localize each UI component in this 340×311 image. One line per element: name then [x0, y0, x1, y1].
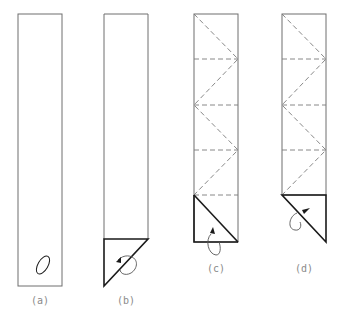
rotation-arrow-icon	[290, 208, 310, 230]
rotation-arrow-icon	[208, 227, 220, 255]
crease-lines	[282, 14, 326, 195]
fold-diagonal	[194, 195, 238, 242]
paper-strip	[282, 14, 326, 195]
panel-label-b: (b)	[104, 295, 148, 306]
panel-d	[282, 14, 326, 242]
ellipse-mark-icon	[34, 254, 53, 276]
panel-label-d: (d)	[282, 263, 326, 274]
rotation-arrow-icon	[116, 256, 136, 275]
paper-strip	[194, 14, 238, 242]
folded-triangle	[282, 195, 326, 242]
panel-b	[104, 14, 148, 286]
paper-strip	[18, 14, 62, 286]
paper-strip	[104, 14, 148, 239]
panel-c	[194, 14, 238, 255]
crease-lines	[194, 14, 238, 195]
folded-triangle	[104, 239, 148, 286]
panel-label-c: (c)	[194, 263, 238, 274]
panel-a	[18, 14, 62, 286]
panel-label-a: (a)	[18, 295, 62, 306]
